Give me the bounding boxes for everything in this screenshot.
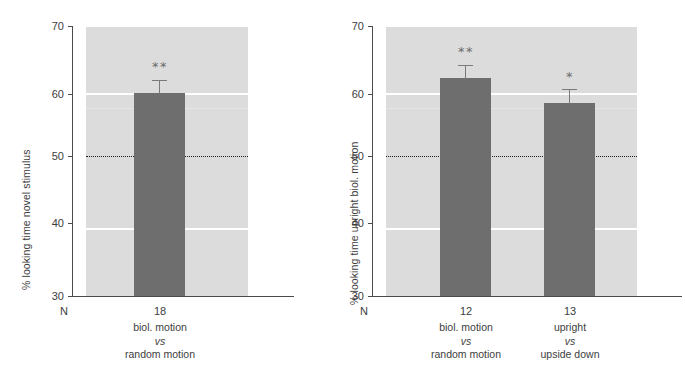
gridline-40-right [386, 228, 637, 230]
y-tick-40-left [68, 223, 73, 224]
n-axis-marker-right: N [360, 305, 368, 317]
condition-line2-left-1: vs [155, 335, 166, 347]
figure-container: % looking time novel stimulus 70 60 50 4… [0, 0, 685, 371]
y-axis-line-left [72, 26, 73, 297]
y-tick-label-30-right: 30 [338, 290, 364, 302]
condition-line1-right-2: upright [554, 321, 586, 333]
condition-label-right-1: biol. motion vs random motion [431, 321, 501, 362]
x-axis-line-left [72, 296, 294, 297]
y-tick-70-left [68, 26, 73, 27]
y-tick-50-left [68, 156, 73, 157]
error-bar-cap-right-2 [562, 89, 577, 90]
gridline-60-right [386, 93, 637, 95]
condition-line2-right-1: vs [461, 335, 472, 347]
error-bar-stem-left-1 [159, 80, 160, 94]
condition-line1-left-1: biol. motion [133, 321, 187, 333]
condition-line3-left-1: random motion [125, 348, 195, 360]
bar-left-1[interactable] [134, 93, 185, 296]
bar-right-2[interactable] [544, 103, 595, 296]
y-tick-label-70-right: 70 [338, 20, 364, 32]
y-tick-label-60-left: 60 [38, 88, 64, 100]
significance-marker-right-1: ** [458, 45, 474, 58]
condition-label-right-2: upright vs upside down [541, 321, 600, 362]
condition-label-left-1: biol. motion vs random motion [125, 321, 195, 362]
chart-panel-left: % looking time novel stimulus 70 60 50 4… [0, 0, 340, 371]
y-tick-50-right [368, 156, 373, 157]
n-axis-marker-left: N [60, 305, 68, 317]
y-tick-label-40-left: 40 [38, 217, 64, 229]
y-tick-60-left [68, 94, 73, 95]
y-tick-label-40-right: 40 [338, 217, 364, 229]
condition-line1-right-1: biol. motion [439, 321, 493, 333]
y-tick-label-50-left: 50 [38, 150, 64, 162]
condition-line3-right-2: upside down [541, 348, 600, 360]
error-bar-stem-right-1 [465, 65, 466, 79]
y-tick-label-60-right: 60 [338, 88, 364, 100]
significance-marker-left-1: ** [152, 60, 168, 73]
error-bar-stem-right-2 [569, 89, 570, 104]
y-tick-label-30-left: 30 [38, 290, 64, 302]
chart-panel-right: % looking time upright biol. motion 70 6… [340, 0, 685, 371]
condition-line2-right-2: vs [565, 335, 576, 347]
n-value-right-1: 12 [460, 305, 472, 317]
chance-line-right [386, 156, 637, 157]
error-bar-cap-right-1 [458, 65, 473, 66]
plot-area-background-right [386, 27, 637, 296]
y-axis-line-right [372, 26, 373, 297]
significance-marker-right-2: * [566, 70, 574, 83]
x-axis-line-right [372, 296, 682, 297]
y-tick-label-70-left: 70 [38, 20, 64, 32]
bar-right-1[interactable] [440, 78, 491, 296]
y-tick-label-50-right: 50 [338, 150, 364, 162]
y-tick-70-right [368, 26, 373, 27]
condition-line3-right-1: random motion [431, 348, 501, 360]
y-tick-30-right [368, 296, 373, 297]
error-bar-cap-left-1 [152, 80, 167, 81]
gridline-58-right [386, 108, 637, 109]
y-tick-30-left [68, 296, 73, 297]
n-value-left-1: 18 [154, 305, 166, 317]
n-value-right-2: 13 [564, 305, 576, 317]
y-tick-60-right [368, 94, 373, 95]
y-tick-40-right [368, 223, 373, 224]
y-axis-label-left: % looking time novel stimulus [20, 149, 32, 290]
